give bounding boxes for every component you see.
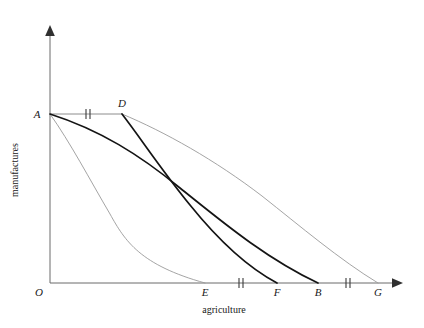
curve-d-f bbox=[122, 114, 277, 283]
y-axis-arrow-icon bbox=[45, 25, 55, 36]
curve-d-g bbox=[122, 114, 378, 283]
curve-a-e bbox=[50, 114, 205, 283]
ppf-figure: A D O E F B G agriculture manufactures bbox=[0, 0, 424, 328]
point-label-d: D bbox=[117, 97, 126, 109]
axis-group bbox=[45, 25, 403, 288]
point-label-a: A bbox=[33, 108, 41, 120]
point-label-o: O bbox=[35, 286, 43, 298]
point-label-b: B bbox=[315, 286, 322, 298]
y-axis-title: manufactures bbox=[9, 143, 20, 197]
plot-canvas: A D O E F B G agriculture manufactures bbox=[0, 0, 424, 328]
x-axis-arrow-icon bbox=[392, 278, 403, 288]
point-label-f: F bbox=[273, 286, 281, 298]
x-axis-title: agriculture bbox=[202, 304, 246, 315]
point-label-g: G bbox=[374, 286, 382, 298]
point-label-e: E bbox=[201, 286, 209, 298]
